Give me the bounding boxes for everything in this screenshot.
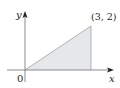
y-axis-label: y [15, 9, 22, 20]
diagram-canvas: y x 0 (3, 2) [0, 0, 120, 88]
point-label: (3, 2) [91, 11, 117, 22]
x-axis-label: x [109, 73, 115, 84]
origin-label: 0 [17, 73, 23, 84]
